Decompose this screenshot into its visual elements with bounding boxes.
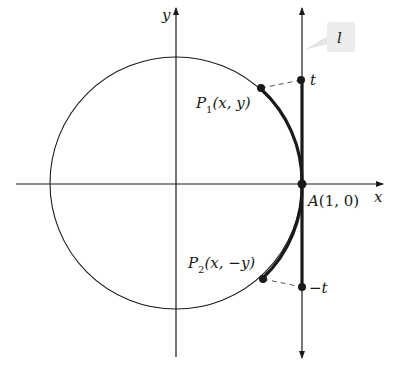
t-label: t xyxy=(310,71,317,89)
unit-circle-diagram: l y x t −t A(1, 0) P1(x, y) P2(x, −y) xyxy=(0,0,394,380)
point-P2-label: P2(x, −y) xyxy=(187,254,255,275)
dashed-P1-to-t xyxy=(261,80,301,88)
line-l-label: l xyxy=(337,29,342,47)
point-A xyxy=(298,180,307,189)
point-t xyxy=(297,76,305,84)
y-axis-label: y xyxy=(161,6,171,24)
point-A-label: A(1, 0) xyxy=(306,192,359,210)
arc-A-to-P1 xyxy=(261,89,302,183)
line-l-callout: l xyxy=(304,22,355,52)
point-P1 xyxy=(257,84,265,92)
minus-t-label: −t xyxy=(309,279,329,297)
diagram-canvas: l y x t −t A(1, 0) P1(x, y) P2(x, −y) xyxy=(0,0,394,380)
point-P1-label: P1(x, y) xyxy=(195,94,251,115)
arc-A-to-P2 xyxy=(263,183,302,278)
dashed-P2-to-minus-t xyxy=(263,279,302,287)
x-axis-label: x xyxy=(374,188,383,206)
point-P2 xyxy=(259,275,267,283)
point-minus-t xyxy=(298,283,306,291)
